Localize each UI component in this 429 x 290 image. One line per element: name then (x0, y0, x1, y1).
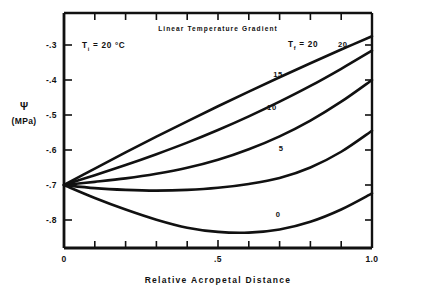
x-tick-label: 1.0 (365, 254, 378, 264)
chart-title: Linear Temperature Gradient (158, 25, 278, 33)
y-tick-label: -.4 (46, 75, 57, 85)
y-tick-label: -.5 (46, 110, 57, 120)
chart-figure: -.3 -.4 -.5 -.6 -.7 -.8 (0, 0, 429, 290)
curve-label-0: 0 (276, 210, 281, 219)
y-tick-label: -.7 (46, 180, 57, 190)
curve-label-10: 10 (267, 103, 277, 112)
y-axis-unit: (MPa) (11, 116, 36, 126)
y-tick-label: -.6 (46, 145, 57, 155)
y-tick-label: -.8 (46, 215, 57, 225)
x-axis-title: Relative Acropetal Distance (145, 275, 292, 285)
x-tick-label: .5 (214, 254, 222, 264)
tf-value: = 20 (296, 40, 318, 49)
y-tick-label: -.3 (46, 40, 57, 50)
line-chart-svg: -.3 -.4 -.5 -.6 -.7 -.8 (0, 0, 429, 290)
curve-label-20: 20 (338, 40, 348, 49)
y-axis-symbol: Ψ (20, 101, 28, 112)
curve-label-15: 15 (273, 70, 283, 79)
x-tick-label: 0 (61, 254, 66, 264)
ti-value: = 20 °C (90, 41, 126, 50)
curve-label-5: 5 (279, 144, 284, 153)
